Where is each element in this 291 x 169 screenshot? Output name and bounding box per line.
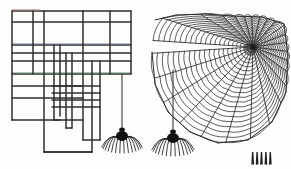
spider-cephalothorax [170,130,176,134]
web-hub [251,45,255,49]
zigzag-stroke [256,152,257,164]
illustration-canvas [0,0,291,169]
spider-abdomen [116,131,128,141]
zigzag-stroke [265,152,266,164]
zigzag-stroke [252,152,253,164]
figure-root: Rectilinear deconstructed web with hangi… [0,0,291,169]
zigzag-stroke [270,152,271,164]
spider-abdomen [167,133,179,143]
zigzag-stroke [261,152,262,164]
spider-cephalothorax [119,128,125,132]
